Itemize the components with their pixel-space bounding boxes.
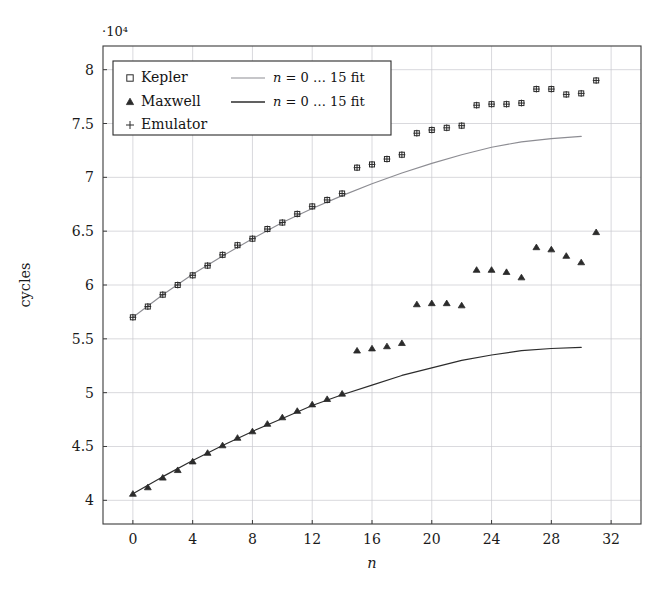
marker-triangle	[398, 340, 405, 346]
marker-triangle	[533, 244, 540, 250]
marker-triangle	[354, 347, 361, 353]
marker-triangle	[443, 300, 450, 306]
legend-fit-variable: n	[273, 70, 281, 85]
marker-triangle	[458, 302, 465, 308]
marker-triangle	[428, 300, 435, 306]
x-tick-label: 28	[542, 531, 560, 547]
y-tick-label: 5.5	[72, 331, 94, 347]
marker-triangle	[548, 246, 555, 252]
marker-triangle	[473, 267, 480, 273]
marker-triangle	[578, 259, 585, 265]
legend-label: Kepler	[141, 69, 188, 85]
legend-fit-label: n = 0 … 15 fit	[273, 70, 365, 85]
marker-triangle	[488, 267, 495, 273]
marker-triangle	[324, 396, 331, 402]
fit-curves	[133, 136, 581, 493]
scatter-plot-svg: 04812162024283244.555.566.577.58ncycles·…	[0, 0, 668, 589]
legend-fit-range: = 0 … 15 fit	[281, 70, 365, 85]
chart-container: 04812162024283244.555.566.577.58ncycles·…	[0, 0, 668, 589]
legend-fit-range: = 0 … 15 fit	[281, 94, 365, 109]
legend-label: Maxwell	[141, 93, 201, 109]
x-tick-label: 8	[248, 531, 257, 547]
x-tick-label: 12	[303, 531, 321, 547]
marker-triangle	[384, 343, 391, 349]
legend-fit-label: n = 0 … 15 fit	[273, 94, 365, 109]
marker-triangle	[369, 345, 376, 351]
y-tick-label: 7	[85, 169, 94, 185]
marker-triangle	[309, 401, 316, 407]
fit-curve-kepler-fit	[133, 136, 581, 317]
y-tick-label: 5	[85, 385, 94, 401]
y-tick-label: 7.5	[72, 116, 94, 132]
x-axis-title: n	[367, 555, 376, 571]
marker-triangle	[518, 274, 525, 280]
marker-triangle	[219, 442, 226, 448]
marker-triangle	[413, 301, 420, 307]
marker-triangle	[593, 229, 600, 235]
marker-triangle	[204, 450, 211, 456]
marker-triangle	[503, 269, 510, 275]
x-tick-label: 16	[363, 531, 381, 547]
y-tick-label: 4.5	[72, 438, 94, 454]
y-tick-label: 6	[85, 277, 94, 293]
fit-curve-maxwell-fit	[133, 347, 581, 493]
x-tick-label: 32	[602, 531, 620, 547]
legend-label: Emulator	[141, 116, 207, 132]
x-tick-label: 0	[128, 531, 137, 547]
legend-fit-variable: n	[273, 94, 281, 109]
marker-triangle	[249, 428, 256, 434]
x-tick-label: 20	[423, 531, 441, 547]
marker-triangle	[339, 391, 346, 397]
y-axis-exponent-label: ·10⁴	[102, 24, 128, 39]
y-tick-label: 6.5	[72, 223, 94, 239]
marker-triangle	[129, 491, 136, 497]
y-tick-label: 8	[85, 62, 94, 78]
x-tick-label: 4	[188, 531, 197, 547]
y-axis-title: cycles	[17, 262, 33, 307]
x-tick-label: 24	[483, 531, 501, 547]
marker-triangle	[563, 253, 570, 259]
legend[interactable]: Keplern = 0 … 15 fitMaxwelln = 0 … 15 fi…	[113, 61, 391, 135]
y-tick-label: 4	[85, 492, 94, 508]
